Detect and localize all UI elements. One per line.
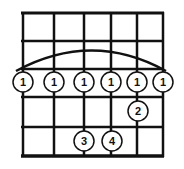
- finger-label: 1: [134, 76, 140, 88]
- finger-dots: [13, 72, 173, 151]
- finger-label: 4: [109, 135, 116, 147]
- finger-label: 3: [81, 135, 87, 147]
- finger-label: 1: [81, 76, 87, 88]
- finger-label: 1: [160, 76, 166, 88]
- finger-label: 1: [20, 76, 26, 88]
- finger-label: 2: [135, 105, 141, 117]
- chord-diagram: 1 1 1 1 1 1 2 3 4: [0, 0, 184, 169]
- finger-label: 1: [51, 76, 57, 88]
- finger-label: 1: [108, 76, 114, 88]
